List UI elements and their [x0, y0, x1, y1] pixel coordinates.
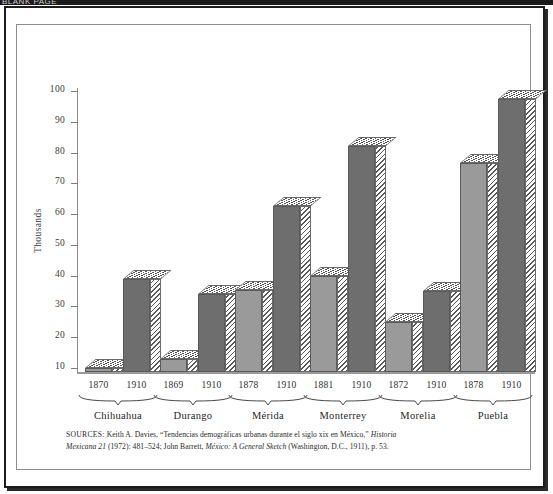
bar-front-face — [85, 368, 112, 372]
y-tick-50: 50 — [17, 245, 75, 246]
y-tick-label: 40 — [55, 269, 65, 279]
y-tick-mark — [71, 183, 78, 184]
x-tick-label-morelia-1910: 1910 — [417, 380, 456, 390]
y-tick-label: 80 — [55, 146, 65, 156]
x-tick-label-chihuahua-1870: 1870 — [79, 380, 118, 390]
bar-monterrey-1881 — [310, 267, 348, 372]
bar-front-face — [310, 276, 337, 372]
bar-side-face — [337, 276, 348, 372]
bar-side-face — [487, 163, 498, 372]
x-tick-label-chihuahua-1910: 1910 — [117, 380, 156, 390]
bar-puebla-1878 — [460, 154, 498, 372]
sources-note: SOURCES: Keith A. Davies, “Tendencias de… — [66, 429, 446, 452]
group-brace-morelia — [378, 395, 458, 406]
x-axis-line — [77, 372, 535, 374]
x-tick-label-monterrey-1881: 1881 — [304, 380, 343, 390]
y-tick-mark — [71, 91, 78, 92]
sources-line2b: (1972): 481–524; John Barrett, — [106, 442, 205, 451]
y-tick-60: 60 — [17, 214, 75, 215]
y-tick-mark — [71, 122, 78, 123]
y-tick-40: 40 — [17, 276, 75, 277]
bar-durango-1910 — [198, 285, 236, 372]
y-tick-label: 20 — [55, 330, 65, 340]
y-tick-label: 60 — [55, 207, 65, 217]
bar-durango-1869 — [160, 350, 198, 372]
bar-front-face — [235, 290, 262, 372]
bar-chihuahua-1910 — [123, 270, 161, 372]
y-tick-label: 30 — [55, 299, 65, 309]
y-tick-mark — [71, 214, 78, 215]
bar-mérida-1878 — [235, 281, 273, 372]
x-tick-label-puebla-1910: 1910 — [492, 380, 531, 390]
bar-morelia-1872 — [385, 313, 423, 372]
bar-side-face — [412, 322, 423, 372]
bar-top-face — [123, 270, 172, 279]
y-tick-mark — [71, 276, 78, 277]
group-label-monterrey: Monterrey — [303, 410, 383, 421]
y-tick-mark — [71, 368, 78, 369]
x-tick-label-morelia-1872: 1872 — [379, 380, 418, 390]
y-tick-20: 20 — [17, 337, 75, 338]
bar-top-face — [273, 197, 322, 206]
bar-mérida-1910 — [273, 197, 311, 372]
group-label-chihuahua: Chihuahua — [78, 410, 158, 421]
bar-morelia-1910 — [423, 282, 461, 372]
bar-top-face — [348, 137, 397, 146]
x-tick-label-monterrey-1910: 1910 — [342, 380, 381, 390]
bar-side-face — [112, 368, 123, 372]
x-tick-label-durango-1910: 1910 — [192, 380, 231, 390]
y-tick-100: 100 — [17, 91, 75, 92]
sources-line2-italic: México: A General Sketch — [205, 442, 286, 451]
y-tick-80: 80 — [17, 153, 75, 154]
y-tick-90: 90 — [17, 122, 75, 123]
bar-front-face — [460, 163, 487, 372]
bar-front-face — [348, 146, 375, 372]
bar-front-face — [123, 279, 150, 372]
group-label-puebla: Puebla — [453, 410, 533, 421]
y-tick-70: 70 — [17, 183, 75, 184]
group-label-mérida: Mérida — [228, 410, 308, 421]
sources-label: SOURCES: — [66, 430, 105, 439]
group-brace-puebla — [453, 395, 533, 406]
bar-front-face — [273, 206, 300, 372]
y-tick-label: 90 — [55, 115, 65, 125]
sources-line2c: (Washington, D.C., 1911), p. 53. — [286, 442, 388, 451]
y-tick-mark — [71, 245, 78, 246]
sources-line1a: Keith A. Davies, “Tendencias demográfica… — [105, 430, 371, 439]
y-tick-label: 70 — [55, 176, 65, 186]
figure-inner-frame: Thousands 102030405060708090100 18701910… — [16, 24, 531, 470]
bar-side-face — [525, 99, 536, 372]
y-tick-mark — [71, 306, 78, 307]
x-tick-label-durango-1869: 1869 — [154, 380, 193, 390]
bar-side-face — [262, 290, 273, 372]
group-brace-monterrey — [303, 395, 383, 406]
group-label-morelia: Morelia — [378, 410, 458, 421]
bar-front-face — [423, 291, 450, 372]
bar-puebla-1910 — [498, 90, 536, 372]
bar-monterrey-1910 — [348, 137, 386, 372]
group-brace-chihuahua — [78, 395, 158, 406]
group-label-durango: Durango — [153, 410, 233, 421]
group-brace-mérida — [228, 395, 308, 406]
page-top-artifact: BLANK PAGE — [0, 0, 553, 5]
y-tick-label: 100 — [50, 84, 65, 94]
y-tick-mark — [71, 153, 78, 154]
x-tick-label-puebla-1878: 1878 — [454, 380, 493, 390]
bar-front-face — [198, 294, 225, 372]
bar-chihuahua-1870 — [85, 359, 123, 372]
y-tick-mark — [71, 337, 78, 338]
bar-front-face — [160, 359, 187, 372]
y-tick-label: 50 — [55, 238, 65, 248]
y-axis-line — [77, 88, 78, 372]
sources-line2-journal: Mexicana 21 — [66, 442, 106, 451]
y-tick-30: 30 — [17, 306, 75, 307]
y-tick-10: 10 — [17, 368, 75, 369]
bar-side-face — [187, 359, 198, 372]
bar-front-face — [385, 322, 412, 372]
group-brace-durango — [153, 395, 233, 406]
bar-front-face — [498, 99, 525, 372]
x-tick-label-mérida-1910: 1910 — [267, 380, 306, 390]
y-tick-label: 10 — [55, 361, 65, 371]
x-tick-label-mérida-1878: 1878 — [229, 380, 268, 390]
sources-line1-italic: Historia — [371, 430, 397, 439]
